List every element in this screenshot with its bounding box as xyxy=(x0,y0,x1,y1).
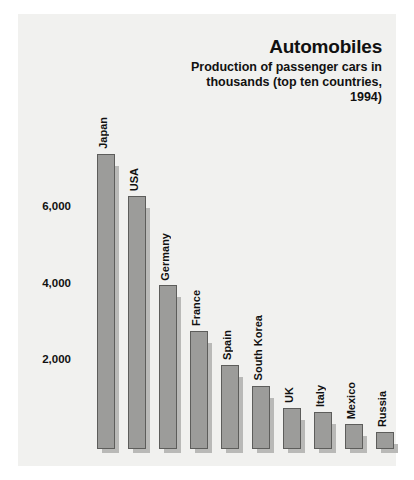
chart-subtitle: Production of passenger cars in thousand… xyxy=(172,60,382,105)
bar-italy[interactable]: Italy xyxy=(314,412,336,449)
bar-label-germany: Germany xyxy=(159,233,177,281)
bar-rect xyxy=(190,331,208,449)
bar-rect xyxy=(252,386,270,449)
bar-label-usa: USA xyxy=(128,168,146,191)
bar-spain[interactable]: Spain xyxy=(221,365,243,449)
bar-japan[interactable]: Japan xyxy=(97,154,119,449)
bar-russia[interactable]: Russia xyxy=(376,432,398,449)
bar-rect xyxy=(376,432,394,449)
bar-france[interactable]: France xyxy=(190,331,212,449)
bar-rect xyxy=(345,424,363,449)
bar-label-russia: Russia xyxy=(376,391,394,427)
title-block: Automobiles Production of passenger cars… xyxy=(172,36,382,105)
bar-label-uk: UK xyxy=(283,387,301,403)
plot-area: JapanUSAGermanyFranceSpainSouth KoreaUKI… xyxy=(97,144,407,449)
bar-rect xyxy=(314,412,332,449)
bar-label-italy: Italy xyxy=(314,385,332,407)
bar-germany[interactable]: Germany xyxy=(159,285,181,449)
bar-rect xyxy=(221,365,239,449)
bar-usa[interactable]: USA xyxy=(128,196,150,449)
bar-label-south-korea: South Korea xyxy=(252,315,270,380)
chart-figure: Automobiles Production of passenger cars… xyxy=(0,0,414,480)
bar-rect xyxy=(97,154,115,449)
chart-panel: Automobiles Production of passenger cars… xyxy=(18,14,396,466)
chart-title: Automobiles xyxy=(172,36,382,57)
bar-label-japan: Japan xyxy=(97,117,115,149)
bar-label-mexico: Mexico xyxy=(345,382,363,419)
bar-mexico[interactable]: Mexico xyxy=(345,424,367,449)
bar-label-spain: Spain xyxy=(221,330,239,360)
bar-rect xyxy=(283,408,301,449)
y-axis-tick-4000: 4,000 xyxy=(17,277,71,289)
y-axis-tick-2000: 2,000 xyxy=(17,353,71,365)
y-axis-tick-6000: 6,000 xyxy=(17,200,71,212)
bar-rect xyxy=(128,196,146,449)
bar-uk[interactable]: UK xyxy=(283,408,305,449)
bar-south-korea[interactable]: South Korea xyxy=(252,386,274,449)
bar-rect xyxy=(159,285,177,449)
bar-label-france: France xyxy=(190,290,208,326)
